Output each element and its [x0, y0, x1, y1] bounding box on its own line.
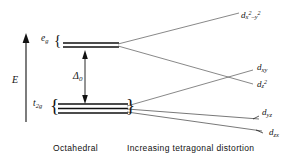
crystal-field-splitting-figure: E eg { t2g { } Δ0 dx2–y2 dxy dz2 dyz dzx… [0, 0, 294, 163]
orbital-label-dzx: dzx [269, 128, 279, 138]
orbital-label-dx2y2: dx2–y2 [241, 10, 261, 21]
caption-octahedral: Octahedral [53, 143, 98, 153]
t2g-closing-brace: } [126, 96, 135, 115]
eg-term-label: eg [41, 34, 48, 44]
energy-axis-arrow [23, 33, 30, 122]
dzx-sub: zx [274, 131, 279, 138]
dx2y2-sup2: 2 [258, 10, 261, 16]
orbital-label-dz2: dz2 [257, 79, 267, 90]
orbital-label-dxy: dxy [257, 63, 267, 73]
caption-tetragonal-distortion: Increasing tetragonal distortion [127, 143, 254, 153]
orbital-label-dyz: dyz [262, 108, 272, 118]
eg-correlation-lines [118, 13, 253, 84]
t2g-level-lines [58, 104, 128, 113]
energy-axis-label: E [12, 74, 18, 85]
diagram-canvas [0, 0, 294, 163]
dz2-sup: 2 [264, 79, 267, 85]
t2g-brace: { [50, 96, 59, 115]
eg-level-lines [63, 43, 119, 47]
t2g-term-sub: 2g [36, 102, 43, 109]
t2g-term-label: t2g [33, 99, 42, 109]
delta-oct-label: Δ0 [73, 70, 82, 83]
dxy-sub: xy [262, 66, 268, 73]
delta-oct-arrow [82, 50, 88, 104]
eg-term-sub: g [45, 37, 48, 44]
eg-brace: { [54, 33, 61, 48]
delta-subscript: 0 [79, 75, 83, 83]
dyz-sub: yz [267, 111, 272, 118]
t2g-correlation-lines [127, 70, 262, 131]
